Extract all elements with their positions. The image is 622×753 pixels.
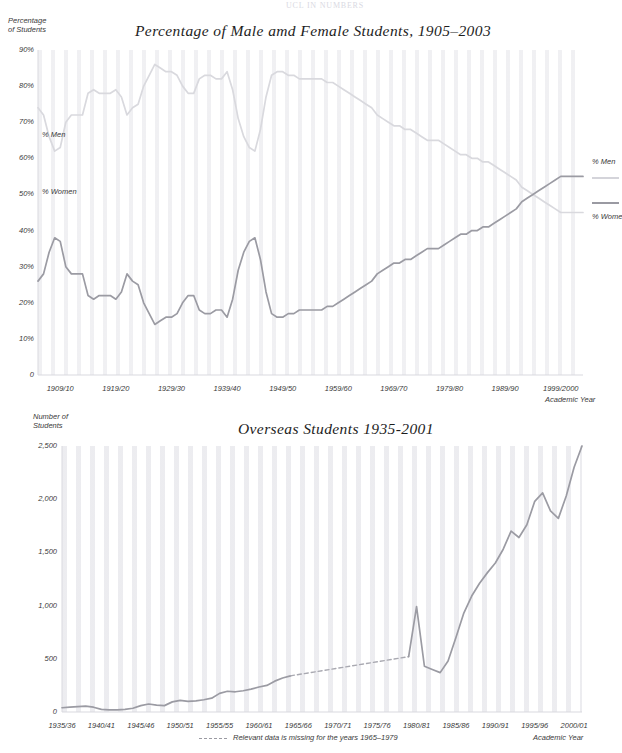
chart1-series-svg — [38, 50, 583, 375]
y-tick-label: 80% — [0, 81, 34, 90]
chart2-plot-area — [62, 446, 582, 712]
chart2-footnote-dash-icon — [199, 738, 227, 739]
chart1-y-axis-title-line1: Percentage — [8, 16, 46, 25]
y-tick-label: 30% — [0, 262, 34, 271]
chart2-footnote: Relevant data is missing for the years 1… — [233, 733, 398, 742]
series-line — [409, 446, 582, 673]
chart-male-female-students: Percentage of Students Percentage of Mal… — [0, 12, 619, 407]
chart1-legend-label-men: % Men — [592, 157, 615, 166]
y-tick-label: 60% — [0, 153, 34, 162]
chart2-y-axis-title-line2: Students — [33, 421, 63, 430]
y-tick-label: 2,000 — [23, 494, 57, 503]
y-tick-label: 0 — [23, 707, 57, 716]
chart2-y-axis-title: Number of Students — [33, 412, 68, 430]
y-tick-label: 40% — [0, 226, 34, 235]
x-tick-label: 1909/10 — [30, 384, 90, 393]
y-tick-label: 70% — [0, 117, 34, 126]
y-tick-label: 1,000 — [23, 601, 57, 610]
x-tick-label: 1969/70 — [364, 384, 424, 393]
y-tick-label: 50% — [0, 189, 34, 198]
y-tick-label: 500 — [23, 654, 57, 663]
y-tick-label: 0 — [0, 370, 34, 379]
series-line — [38, 176, 583, 324]
chart1-legend-swatch-women — [592, 202, 619, 204]
chart1-legend-label-women: % Wome — [592, 212, 622, 221]
x-tick-label: 1989/90 — [475, 384, 535, 393]
chart2-title: Overseas Students 1935-2001 — [238, 420, 434, 438]
chart1-title: Percentage of Male amd Female Students, … — [135, 22, 491, 40]
chart1-legend-swatch-men — [592, 177, 619, 179]
chart2-series-svg — [62, 446, 582, 712]
y-tick-label: 90% — [0, 45, 34, 54]
chart1-y-axis-title-line2: of Students — [8, 25, 46, 34]
x-tick-label: 1929/30 — [141, 384, 201, 393]
chart1-plot-area — [38, 50, 583, 375]
x-tick-label: 1999/2000 — [531, 384, 591, 393]
series-line — [38, 64, 583, 212]
series-line — [290, 657, 408, 676]
y-tick-label: 1,500 — [23, 547, 57, 556]
chart2-y-axis-title-line1: Number of — [33, 412, 68, 421]
x-tick-label: 1979/80 — [420, 384, 480, 393]
chart1-series-label-men: % Men — [42, 130, 65, 139]
x-tick-label: 1939/40 — [197, 384, 257, 393]
chart1-series-label-women: % Women — [42, 187, 77, 196]
series-line — [62, 676, 290, 710]
chart1-y-axis-title: Percentage of Students — [8, 16, 46, 34]
page-running-header: UCL IN NUMBERS — [205, 1, 445, 10]
x-tick-label: 1949/50 — [253, 384, 313, 393]
y-tick-label: 10% — [0, 334, 34, 343]
x-tick-label: 1919/20 — [86, 384, 146, 393]
y-tick-label: 2,500 — [23, 441, 57, 450]
chart1-x-axis-title: Academic Year — [545, 395, 595, 404]
x-tick-label: 2000/01 — [544, 721, 604, 730]
chart-overseas-students: Number of Students Overseas Students 193… — [0, 410, 619, 753]
x-tick-label: 1959/60 — [308, 384, 368, 393]
chart2-x-axis-title: Academic Year — [533, 733, 583, 742]
y-tick-label: 20% — [0, 298, 34, 307]
